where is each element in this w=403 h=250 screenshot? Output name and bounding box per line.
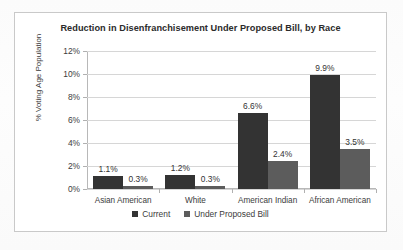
y-axis-tick [83, 74, 87, 75]
bar-value-label: 6.6% [231, 101, 275, 111]
y-axis-tick [83, 51, 87, 52]
bar-value-label: 0.3% [116, 174, 160, 184]
chart-legend: CurrentUnder Proposed Bill [15, 209, 386, 219]
chart-screenshot: Reduction in Disenfranchisement Under Pr… [0, 0, 403, 250]
legend-item: Under Proposed Bill [184, 209, 268, 219]
bar-value-label: 0.3% [188, 174, 232, 184]
y-axis-tick [83, 189, 87, 190]
chart-frame: Reduction in Disenfranchisement Under Pr… [14, 12, 387, 232]
bar-value-label: 2.4% [261, 149, 305, 159]
y-axis-tick-label: 4% [68, 138, 80, 148]
y-axis-tick [83, 143, 87, 144]
y-axis-tick-label: 0% [68, 184, 80, 194]
y-axis-title: % Voting Age Population [34, 13, 43, 143]
bar-value-label: 1.2% [158, 163, 202, 173]
gridline [87, 51, 376, 52]
y-axis-tick-label: 12% [63, 46, 80, 56]
legend-swatch-icon [132, 211, 138, 217]
bar [195, 186, 225, 189]
x-axis-tick [376, 189, 377, 193]
y-axis-tick-label: 2% [68, 161, 80, 171]
y-axis-tick-label: 8% [68, 92, 80, 102]
plot-area: 0%2%4%6%8%10%12% 1.1%0.3%1.2%0.3%6.6%2.4… [87, 51, 376, 189]
bar-value-label: 3.5% [333, 137, 377, 147]
bar [310, 75, 340, 189]
bar [123, 186, 153, 189]
bar-value-label: 9.9% [303, 63, 347, 73]
y-axis-tick [83, 120, 87, 121]
legend-swatch-icon [184, 211, 190, 217]
legend-label: Under Proposed Bill [194, 209, 268, 219]
x-axis-tick [304, 189, 305, 193]
chart-title: Reduction in Disenfranchisement Under Pr… [15, 23, 386, 33]
x-axis-tick [232, 189, 233, 193]
x-axis-tick [159, 189, 160, 193]
x-axis-category-label: White [185, 196, 206, 205]
x-axis-category-label: African American [309, 196, 371, 205]
x-axis-category-label: American Indian [238, 196, 297, 205]
y-axis-tick [83, 97, 87, 98]
bar [340, 149, 370, 189]
x-axis-category-label: Asian American [95, 196, 152, 205]
y-axis-tick-label: 6% [68, 115, 80, 125]
bar [268, 161, 298, 189]
y-axis-tick-label: 10% [63, 69, 80, 79]
legend-label: Current [142, 209, 170, 219]
legend-item: Current [132, 209, 170, 219]
